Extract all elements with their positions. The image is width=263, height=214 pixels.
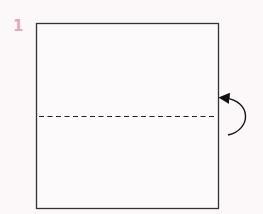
origami-diagram	[0, 0, 263, 214]
fold-arrow-icon	[224, 98, 246, 135]
